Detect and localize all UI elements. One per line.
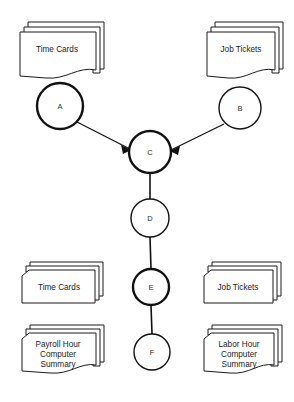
document-time-cards-bottom[interactable]: Time Cards — [22, 262, 103, 303]
node-label-c: C — [147, 148, 153, 157]
node-label-f: F — [150, 348, 155, 357]
document-label-time-cards-top: Time Cards — [36, 45, 78, 54]
document-time-cards-top[interactable]: Time Cards — [20, 22, 104, 78]
node-label-e: E — [148, 283, 153, 292]
connector-b-to-c — [170, 124, 224, 155]
node-e[interactable]: E — [133, 269, 169, 305]
connector-e-to-f — [151, 305, 152, 334]
document-label-labor-summary-line3: Summary — [221, 360, 257, 369]
node-f[interactable]: F — [134, 334, 170, 370]
node-label-b: B — [237, 104, 242, 113]
node-label-d: D — [147, 214, 153, 223]
node-a[interactable]: A — [37, 83, 83, 129]
document-label-job-tickets-top: Job Tickets — [221, 45, 262, 54]
document-label-payroll-summary-line2: Computer — [40, 350, 76, 359]
document-label-labor-summary-line1: Labor Hour — [219, 340, 260, 349]
document-labor-summary[interactable]: Labor Hour Computer Summary — [204, 325, 282, 373]
document-stack-sheet-front — [207, 32, 275, 78]
node-d[interactable]: D — [131, 199, 169, 237]
connector-a-to-c — [77, 122, 131, 154]
document-job-tickets-bottom[interactable]: Job Tickets — [204, 262, 281, 303]
document-label-labor-summary-line2: Computer — [221, 350, 257, 359]
document-job-tickets-top[interactable]: Job Tickets — [207, 22, 283, 78]
document-label-job-tickets-bottom: Job Tickets — [218, 283, 259, 292]
node-c[interactable]: C — [129, 131, 171, 173]
flowchart-svg: Time Cards Job Tickets A — [0, 0, 294, 402]
flowchart-canvas: Time Cards Job Tickets A — [0, 0, 294, 402]
document-label-payroll-summary-line1: Payroll Hour — [35, 340, 80, 349]
node-b[interactable]: B — [219, 87, 261, 129]
document-label-time-cards-bottom: Time Cards — [38, 283, 80, 292]
document-stack-sheet-front — [20, 32, 96, 78]
connector-line-b-c — [171, 124, 224, 150]
node-label-a: A — [57, 102, 62, 111]
document-payroll-summary[interactable]: Payroll Hour Computer Summary — [22, 325, 104, 373]
connector-line-a-c — [77, 122, 130, 149]
connector-d-to-e — [150, 237, 151, 269]
document-label-payroll-summary-line3: Summary — [40, 360, 76, 369]
